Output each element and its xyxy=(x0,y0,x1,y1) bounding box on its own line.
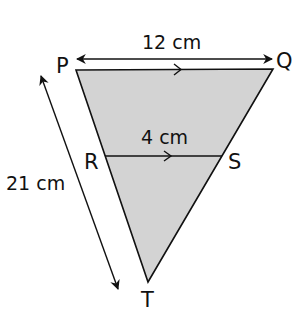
measurement-rs: 4 cm xyxy=(141,126,188,148)
measurement-pq: 12 cm xyxy=(142,31,201,53)
vertex-label-s: S xyxy=(228,150,241,174)
vertex-label-r: R xyxy=(84,150,99,174)
triangle-pqt xyxy=(76,69,273,282)
similar-triangles-diagram: P Q R S T 12 cm 4 cm 21 cm xyxy=(0,0,302,321)
vertex-label-q: Q xyxy=(276,49,293,73)
vertex-label-t: T xyxy=(140,288,154,312)
measurement-pt: 21 cm xyxy=(6,172,65,194)
vertex-label-p: P xyxy=(56,54,69,78)
